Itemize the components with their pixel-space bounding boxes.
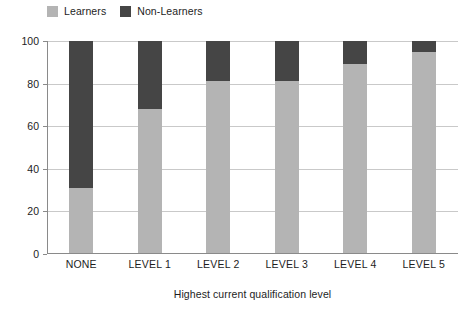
bar-segment-non-learners[interactable] bbox=[412, 41, 436, 52]
y-tick-mark bbox=[43, 211, 47, 212]
y-tick-mark bbox=[43, 84, 47, 85]
bar-slot bbox=[184, 41, 253, 254]
y-tick-label: 20 bbox=[27, 205, 39, 217]
y-tick-mark bbox=[43, 126, 47, 127]
x-axis-title: Highest current qualification level bbox=[47, 288, 458, 300]
bar-slot bbox=[253, 41, 322, 254]
x-axis-line bbox=[47, 253, 458, 254]
bar-slot bbox=[47, 41, 116, 254]
x-axis-category-label: NONE bbox=[47, 258, 116, 270]
chart-legend: Learners Non-Learners bbox=[47, 3, 203, 19]
bar-segment-non-learners[interactable] bbox=[206, 41, 230, 81]
bar-segment-learners[interactable] bbox=[275, 81, 299, 254]
x-axis-category-label: LEVEL 2 bbox=[184, 258, 253, 270]
y-tick-mark bbox=[43, 254, 47, 255]
bar-stack[interactable] bbox=[138, 41, 162, 254]
bar-segment-non-learners[interactable] bbox=[69, 41, 93, 188]
y-tick-label: 40 bbox=[27, 163, 39, 175]
plot-area: 020406080100 bbox=[47, 41, 458, 254]
x-axis-category-labels: NONELEVEL 1LEVEL 2LEVEL 3LEVEL 4LEVEL 5 bbox=[47, 258, 458, 270]
bar-stack[interactable] bbox=[69, 41, 93, 254]
legend-swatch-non-learners bbox=[120, 6, 131, 17]
legend-item-non-learners: Non-Learners bbox=[120, 5, 202, 17]
bar-segment-learners[interactable] bbox=[138, 109, 162, 254]
legend-label-non-learners: Non-Learners bbox=[137, 5, 202, 17]
bar-segment-learners[interactable] bbox=[206, 81, 230, 254]
bar-slot bbox=[116, 41, 185, 254]
legend-label-learners: Learners bbox=[64, 5, 106, 17]
x-axis-category-label: LEVEL 5 bbox=[390, 258, 459, 270]
bar-stack[interactable] bbox=[206, 41, 230, 254]
bar-segment-learners[interactable] bbox=[69, 188, 93, 254]
bars-layer bbox=[47, 41, 458, 254]
bar-segment-learners[interactable] bbox=[412, 52, 436, 254]
bar-stack[interactable] bbox=[343, 41, 367, 254]
y-tick-mark bbox=[43, 41, 47, 42]
legend-swatch-learners bbox=[47, 6, 58, 17]
bar-slot bbox=[321, 41, 390, 254]
legend-item-learners: Learners bbox=[47, 5, 106, 17]
x-axis-category-label: LEVEL 4 bbox=[321, 258, 390, 270]
bar-segment-learners[interactable] bbox=[343, 64, 367, 254]
bar-stack[interactable] bbox=[412, 41, 436, 254]
y-tick-mark bbox=[43, 169, 47, 170]
bar-segment-non-learners[interactable] bbox=[138, 41, 162, 109]
x-axis-category-label: LEVEL 3 bbox=[253, 258, 322, 270]
y-tick-label: 60 bbox=[27, 120, 39, 132]
bar-segment-non-learners[interactable] bbox=[343, 41, 367, 64]
y-tick-label: 0 bbox=[33, 248, 39, 260]
bar-segment-non-learners[interactable] bbox=[275, 41, 299, 81]
y-axis-line bbox=[47, 41, 48, 254]
y-tick-label: 100 bbox=[21, 35, 39, 47]
bar-slot bbox=[390, 41, 459, 254]
y-tick-label: 80 bbox=[27, 78, 39, 90]
bar-stack[interactable] bbox=[275, 41, 299, 254]
stacked-bar-chart: Learners Non-Learners 020406080100 NONEL… bbox=[0, 0, 467, 309]
x-axis-category-label: LEVEL 1 bbox=[116, 258, 185, 270]
